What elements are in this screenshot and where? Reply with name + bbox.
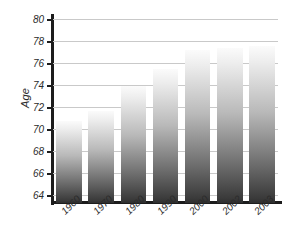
y-axis-tick-label: 78 (33, 36, 44, 47)
y-axis-tick-label: 64 (33, 190, 44, 201)
y-axis-title: Age (19, 78, 31, 118)
bar (121, 86, 147, 203)
bar (56, 121, 82, 204)
y-axis-tick-label: 66 (33, 168, 44, 179)
plot-area: 646668707274767880 (53, 16, 278, 203)
bar-chart: Age 646668707274767880 19601970198019902… (0, 0, 295, 238)
bar (153, 69, 179, 203)
y-axis-tick-label: 70 (33, 124, 44, 135)
y-axis-tick-label: 80 (33, 14, 44, 25)
y-axis-tick-mark (47, 173, 53, 175)
y-axis-tick-mark (47, 19, 53, 21)
y-axis-tick-mark (47, 63, 53, 65)
y-axis-tick-label: 68 (33, 146, 44, 157)
gridline (53, 63, 278, 64)
y-axis-tick-mark (47, 85, 53, 87)
y-axis-tick-mark (47, 41, 53, 43)
y-axis-tick-mark (47, 195, 53, 197)
x-axis-ticks: 1960197019801990200020022003 (53, 205, 285, 238)
y-axis-tick-mark (47, 107, 53, 109)
gridline (53, 19, 278, 20)
bar (217, 48, 243, 203)
y-axis-tick-mark (47, 129, 53, 131)
bar (88, 111, 114, 203)
gridline (53, 41, 278, 42)
bar (185, 50, 211, 203)
y-axis-tick-label: 74 (33, 80, 44, 91)
y-axis-tick-label: 76 (33, 58, 44, 69)
bar (249, 46, 275, 203)
y-axis-tick-mark (47, 151, 53, 153)
y-axis-tick-label: 72 (33, 102, 44, 113)
